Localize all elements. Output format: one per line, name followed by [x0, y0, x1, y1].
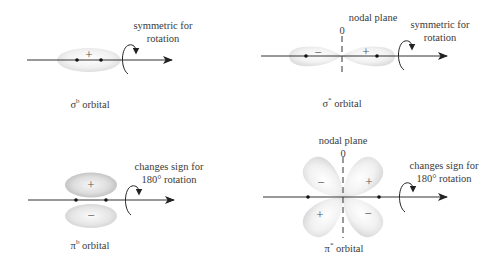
- sigma-antibonding-panel: [261, 36, 447, 74]
- pi-antibonding-annotation-line2: 180° rotation: [416, 173, 471, 185]
- caption-text: orbital: [80, 99, 110, 110]
- nucleus-left: [304, 54, 308, 58]
- pi-antibonding-nodal-value: 0: [340, 148, 345, 160]
- pi-bonding-annotation-line1: changes sign for: [135, 161, 204, 173]
- rotation-arrow-icon: [122, 45, 136, 74]
- pi-bonding-sign-upper: +: [87, 178, 94, 191]
- caption-text: orbital: [79, 240, 109, 251]
- caption-text: orbital: [332, 98, 362, 109]
- sigma-bonding-panel: [27, 45, 172, 74]
- pi-antibonding-sign-upper-left: −: [317, 176, 324, 189]
- sigma-bonding-sign: +: [85, 48, 92, 61]
- nucleus-right: [99, 58, 103, 62]
- sigma-bonding-annotation-line1: symmetric for: [133, 20, 192, 32]
- pi-antibonding-caption: π* orbital: [325, 241, 364, 254]
- sigma-antibonding-annotation-line1: symmetric for: [410, 19, 469, 31]
- sigma-antibonding-caption: σ* orbital: [322, 96, 361, 109]
- sigma-antibonding-annotation-line2: rotation: [424, 32, 457, 44]
- sigma-antibonding-sign-left: −: [314, 46, 321, 59]
- sigma-bonding-annotation-line2: rotation: [147, 33, 180, 45]
- pi-antibonding-sign-lower-right: −: [364, 207, 371, 220]
- nucleus-right: [104, 198, 108, 202]
- pi-antibonding-sign-lower-left: +: [316, 208, 323, 221]
- pi-antibonding-sign-upper-right: +: [365, 175, 372, 188]
- sigma-antibonding-nodal-value: 0: [339, 25, 344, 37]
- nucleus-right: [375, 54, 379, 58]
- rotation-arrow-icon: [398, 41, 412, 70]
- pi-antibonding-annotation-line1: changes sign for: [410, 160, 479, 172]
- nucleus-left: [75, 58, 79, 62]
- nucleus-right: [377, 195, 381, 199]
- nucleus-left: [74, 198, 78, 202]
- pi-bonding-sign-lower: −: [87, 209, 94, 222]
- pi-bonding-annotation-line2: 180° rotation: [141, 174, 196, 186]
- sigma-antibonding-nodal-label: nodal plane: [349, 12, 398, 24]
- pi-antibonding-nodal-label: nodal plane: [319, 135, 368, 147]
- caption-text: orbital: [333, 243, 363, 254]
- pi-bonding-caption: πb orbital: [71, 238, 110, 251]
- nucleus-left: [306, 195, 310, 199]
- sigma-bonding-caption: σb orbital: [70, 97, 109, 110]
- sigma-antibonding-sign-right: +: [362, 45, 369, 58]
